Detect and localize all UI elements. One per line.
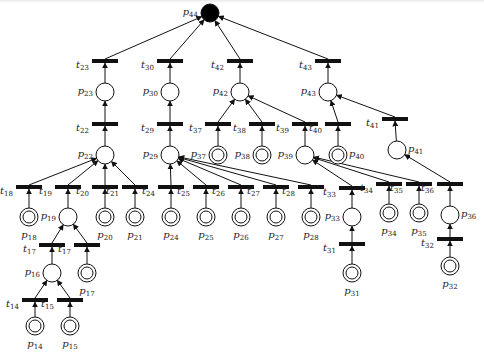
arc-t23-p44 — [105, 17, 202, 59]
place-p42 — [231, 83, 249, 101]
transition-t40 — [325, 122, 351, 126]
place-p41 — [388, 141, 406, 159]
label-t37: t37 — [189, 122, 202, 135]
arc-t43-p44 — [218, 16, 328, 59]
transition-t38 — [249, 122, 275, 126]
label-p19: p19 — [41, 210, 56, 223]
label-p40: p40 — [349, 148, 364, 161]
place-p19 — [59, 208, 77, 226]
label-t31: t31 — [323, 242, 336, 255]
transition-t42 — [227, 59, 253, 63]
label-t29: t29 — [141, 122, 154, 135]
arc-p41-t41 — [395, 121, 396, 141]
place-p39 — [296, 146, 314, 164]
arc-t28-p29 — [179, 157, 311, 185]
label-t14: t14 — [6, 298, 19, 311]
label-p29: p29 — [143, 148, 158, 161]
label-p41: p41 — [408, 143, 423, 156]
label-p23: p23 — [78, 85, 93, 98]
arc-t24-p29 — [170, 164, 171, 185]
place-p43 — [319, 83, 337, 101]
transition-t43 — [315, 59, 341, 63]
arc-t19-p22 — [68, 161, 98, 185]
label-p15: p15 — [62, 338, 77, 351]
label-p22: p22 — [78, 148, 93, 161]
label-p44: p44 — [183, 6, 199, 19]
arc-t34-p39 — [314, 158, 389, 182]
label-t41: t41 — [366, 117, 379, 130]
label-t18: t18 — [0, 185, 13, 198]
label-t23: t23 — [76, 59, 89, 72]
label-p35: p35 — [411, 225, 426, 238]
transition-t39 — [292, 122, 318, 126]
transition-t37 — [205, 122, 231, 126]
label-p16: p16 — [25, 266, 41, 279]
label-p34: p34 — [381, 225, 397, 238]
place-p36 — [441, 206, 459, 224]
transition-t15 — [57, 298, 83, 302]
transition-t22 — [92, 122, 118, 126]
arc-t15-p16 — [57, 280, 70, 298]
label-p24: p24 — [163, 229, 179, 242]
place-p44-marked — [201, 4, 219, 22]
arc-t17b-p19 — [73, 224, 87, 243]
label-t42: t42 — [211, 59, 224, 72]
arc-t41-p43 — [336, 95, 395, 117]
label-t20: t20 — [76, 185, 89, 198]
label-p33: p33 — [325, 210, 340, 223]
transition-t35 — [406, 182, 432, 186]
label-p27: p27 — [268, 229, 283, 242]
label-p28: p28 — [303, 229, 318, 242]
label-t32: t32 — [421, 237, 434, 250]
label-t24: t24 — [142, 185, 155, 198]
label-p25: p25 — [198, 229, 213, 242]
place-p30 — [161, 83, 179, 101]
label-t43: t43 — [299, 59, 312, 72]
transition-t20 — [92, 185, 118, 189]
place-p22 — [96, 146, 114, 164]
place-p29 — [161, 146, 179, 164]
label-p38: p38 — [235, 148, 250, 161]
label-t30: t30 — [141, 59, 154, 72]
transition-t34 — [376, 182, 402, 186]
label-t38: t38 — [233, 122, 246, 135]
arc-t14-p16 — [35, 280, 47, 298]
transition-t41 — [382, 117, 408, 121]
arc-t39-p42 — [248, 96, 305, 122]
arc-t21-p22 — [111, 161, 135, 185]
place-p33 — [343, 208, 361, 226]
arc-t17a-p19 — [52, 225, 63, 243]
transition-t28 — [298, 185, 324, 189]
transition-t17b — [74, 243, 100, 247]
label-p31: p31 — [344, 285, 359, 298]
transition-t29 — [157, 122, 183, 126]
arc-t35-p39 — [314, 157, 419, 182]
transition-t31 — [339, 242, 365, 246]
arc-t18-p22 — [29, 158, 97, 185]
label-t17a: t17 — [23, 243, 36, 256]
label-p37: p37 — [191, 148, 206, 161]
arc-t38-p42 — [245, 99, 262, 122]
label-t39: t39 — [276, 122, 289, 135]
label-p20: p20 — [97, 229, 112, 242]
label-p14: p14 — [27, 338, 43, 351]
arc-t30-p44 — [170, 20, 204, 59]
label-t22: t22 — [76, 122, 89, 135]
transition-t36 — [437, 182, 463, 186]
transition-t23 — [92, 59, 118, 63]
transition-t30 — [157, 59, 183, 63]
arc-t37-p42 — [218, 99, 235, 122]
label-p39: p39 — [278, 148, 293, 161]
place-p23 — [96, 83, 114, 101]
label-p43: p43 — [301, 85, 316, 98]
arc-t42-p44 — [215, 21, 240, 59]
label-t19: t19 — [39, 185, 52, 198]
petri-net-diagram: t23t30t42t43t22t29t37t38t39t40t41t18t19t… — [0, 0, 484, 353]
label-p36: p36 — [461, 208, 477, 221]
label-p30: p30 — [143, 85, 158, 98]
place-p16 — [43, 264, 61, 282]
arc-t40-p43 — [331, 101, 338, 122]
label-p42: p42 — [213, 85, 228, 98]
label-p32: p32 — [442, 278, 457, 291]
transition-t32 — [437, 237, 463, 241]
